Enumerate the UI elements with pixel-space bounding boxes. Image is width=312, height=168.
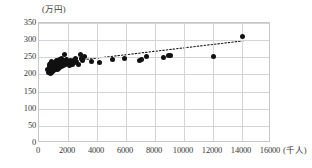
data-point xyxy=(110,57,115,62)
x-axis-tick-label: 2000 xyxy=(59,146,75,155)
x-axis-tick-label: 0 xyxy=(36,146,40,155)
gridline-horizontal xyxy=(39,74,269,75)
y-axis-tick-label: 300 xyxy=(0,35,36,44)
x-axis-tick-label: 10000 xyxy=(173,146,193,155)
gridline-horizontal xyxy=(39,109,269,110)
y-axis-tick-label: 50 xyxy=(0,121,36,130)
x-axis-tick-label: 4000 xyxy=(88,146,104,155)
data-point xyxy=(82,54,87,59)
y-axis-tick-label: 250 xyxy=(0,52,36,61)
gridline-vertical xyxy=(126,23,127,141)
gridline-vertical xyxy=(97,23,98,141)
y-axis-unit-label: (万円) xyxy=(42,5,66,14)
gridline-horizontal xyxy=(39,126,269,127)
scatter-chart: (万円) 05010015020025030035002000400060008… xyxy=(0,0,312,168)
x-axis-tick-label: 16000 xyxy=(260,146,280,155)
y-axis-tick-label: 150 xyxy=(0,87,36,96)
gridline-horizontal xyxy=(39,40,269,41)
gridline-vertical xyxy=(242,23,243,141)
gridline-vertical xyxy=(213,23,214,141)
plot-area xyxy=(38,22,270,142)
gridline-horizontal xyxy=(39,92,269,93)
gridline-vertical xyxy=(155,23,156,141)
y-axis-tick-label: 100 xyxy=(0,104,36,113)
data-point xyxy=(240,34,245,39)
gridline-vertical xyxy=(68,23,69,141)
data-point xyxy=(144,54,149,59)
x-axis-tick-label: 8000 xyxy=(146,146,162,155)
x-axis-tick-label: 12000 xyxy=(202,146,222,155)
y-axis-tick-label: 200 xyxy=(0,69,36,78)
y-axis-tick-label: 350 xyxy=(0,18,36,27)
gridline-vertical xyxy=(184,23,185,141)
data-point xyxy=(97,60,102,65)
x-axis-tick-label: 6000 xyxy=(117,146,133,155)
x-axis-tick-label: 14000 xyxy=(231,146,251,155)
y-axis-tick-label: 0 xyxy=(0,138,36,147)
data-point xyxy=(122,56,127,61)
gridline-horizontal xyxy=(39,23,269,24)
data-point xyxy=(211,54,216,59)
x-axis-unit-label: (千人) xyxy=(283,146,307,155)
data-point xyxy=(89,59,94,64)
